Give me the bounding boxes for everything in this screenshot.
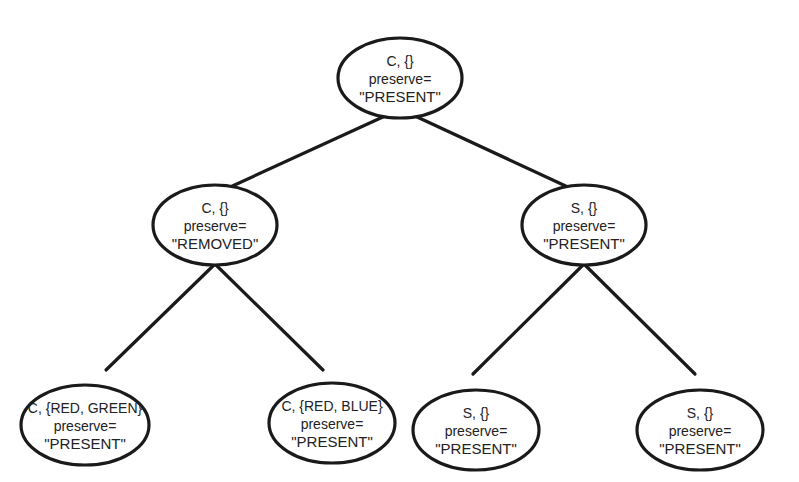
- node-label-preserve: preserve=: [54, 418, 117, 434]
- node-label-value: "PRESENT": [543, 235, 625, 252]
- tree-node-right-right: S, {}preserve="PRESENT": [637, 390, 763, 470]
- node-label-preserve: preserve=: [553, 218, 616, 234]
- tree-node-root: C, {}preserve="PRESENT": [338, 38, 462, 118]
- edge-root-to-right: [415, 116, 570, 188]
- node-label-value: "PRESENT": [435, 440, 517, 457]
- edge-right-to-right-right: [584, 264, 695, 374]
- edge-right-to-right-left: [473, 264, 584, 374]
- node-label-preserve: preserve=: [184, 218, 247, 234]
- node-label-preserve: preserve=: [669, 423, 732, 439]
- edge-left-to-left-right: [215, 264, 323, 370]
- node-label-state: S, {}: [463, 405, 490, 421]
- node-label-preserve: preserve=: [301, 416, 364, 432]
- tree-node-left-left: C, {RED, GREEN}preserve="PRESENT": [21, 385, 149, 465]
- edge-root-to-left: [228, 116, 385, 188]
- edge-left-to-left-left: [106, 264, 215, 370]
- node-label-value: "PRESENT": [359, 88, 441, 105]
- node-label-preserve: preserve=: [445, 423, 508, 439]
- tree-node-right: S, {}preserve="PRESENT": [522, 185, 646, 265]
- node-label-state: C, {RED, BLUE}: [281, 398, 382, 414]
- node-label-state: S, {}: [571, 200, 598, 216]
- tree-nodes: C, {}preserve="PRESENT"C, {}preserve="RE…: [21, 38, 763, 470]
- node-label-state: S, {}: [687, 405, 714, 421]
- node-label-preserve: preserve=: [369, 71, 432, 87]
- node-label-value: "PRESENT": [291, 433, 373, 450]
- tree-node-right-left: S, {}preserve="PRESENT": [413, 390, 539, 470]
- tree-node-left: C, {}preserve="REMOVED": [153, 185, 277, 265]
- node-label-state: C, {}: [201, 200, 229, 216]
- node-label-value: "REMOVED": [172, 235, 259, 252]
- node-label-state: C, {}: [386, 53, 414, 69]
- node-label-state: C, {RED, GREEN}: [28, 400, 143, 416]
- node-label-value: "PRESENT": [44, 435, 126, 452]
- node-label-value: "PRESENT": [659, 440, 741, 457]
- tree-node-left-right: C, {RED, BLUE}preserve="PRESENT": [269, 383, 395, 463]
- tree-diagram: C, {}preserve="PRESENT"C, {}preserve="RE…: [0, 0, 799, 482]
